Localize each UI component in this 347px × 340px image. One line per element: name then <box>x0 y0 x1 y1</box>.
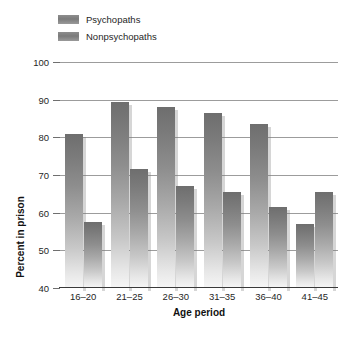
y-tick-mark-40 <box>53 288 60 289</box>
bar-nonpsychopaths-16-20 <box>84 222 102 288</box>
x-tick-label-36-40: 36–40 <box>255 291 281 302</box>
bar-fill <box>315 192 333 288</box>
bar-nonpsychopaths-36-40 <box>269 207 287 288</box>
bar-nonpsychopaths-26-30 <box>176 186 194 288</box>
plot-area: 405060708090100 <box>60 62 338 288</box>
legend-item-nonpsychopaths: Nonpsychopaths <box>58 29 218 43</box>
bar-fill <box>157 107 175 288</box>
bar-fill <box>84 222 102 288</box>
bar-shadow <box>102 225 105 291</box>
x-axis-title: Age period <box>60 307 338 318</box>
y-tick-label-100: 100 <box>33 57 49 68</box>
y-tick-label-50: 50 <box>38 245 49 256</box>
y-tick-mark-70 <box>53 175 60 176</box>
bar-shadow <box>148 172 151 291</box>
x-tick-label-26-30: 26–30 <box>163 291 189 302</box>
chart-legend: Psychopaths Nonpsychopaths <box>58 12 218 46</box>
y-tick-mark-50 <box>53 250 60 251</box>
bar-fill <box>130 169 148 288</box>
y-tick-mark-90 <box>53 100 60 101</box>
bar-psychopaths-21-25 <box>111 102 129 288</box>
bar-psychopaths-26-30 <box>157 107 175 288</box>
bar-shadow <box>241 195 244 291</box>
y-axis-title: Percent in prison <box>15 196 26 278</box>
bar-fill <box>250 124 268 288</box>
x-tick-label-41-45: 41–45 <box>302 291 328 302</box>
bar-fill <box>176 186 194 288</box>
y-tick-label-70: 70 <box>38 170 49 181</box>
bar-fill <box>65 134 83 288</box>
legend-swatch-nonpsychopaths <box>58 32 79 41</box>
bar-fill <box>296 224 314 288</box>
caption-strip <box>0 333 347 340</box>
bar-nonpsychopaths-41-45 <box>315 192 333 288</box>
bar-psychopaths-41-45 <box>296 224 314 288</box>
bar-psychopaths-16-20 <box>65 134 83 288</box>
legend-swatch-psychopaths <box>58 15 79 24</box>
bar-chart-figure: Psychopaths Nonpsychopaths Percent in pr… <box>0 0 347 340</box>
legend-label-nonpsychopaths: Nonpsychopaths <box>86 31 157 42</box>
bar-fill <box>111 102 129 288</box>
y-tick-label-60: 60 <box>38 207 49 218</box>
x-tick-label-21-25: 21–25 <box>116 291 142 302</box>
bar-nonpsychopaths-21-25 <box>130 169 148 288</box>
x-axis-line <box>59 287 338 288</box>
bar-fill <box>204 113 222 288</box>
y-tick-label-80: 80 <box>38 132 49 143</box>
y-axis-title-wrapper: Percent in prison <box>16 62 17 288</box>
y-tick-label-90: 90 <box>38 94 49 105</box>
y-tick-mark-60 <box>53 213 60 214</box>
bar-shadow <box>287 210 290 291</box>
y-tick-mark-80 <box>53 137 60 138</box>
bar-fill <box>223 192 241 288</box>
x-tick-label-31-35: 31–35 <box>209 291 235 302</box>
y-tick-mark-100 <box>53 62 60 63</box>
bars-group <box>60 62 338 288</box>
legend-label-psychopaths: Psychopaths <box>86 14 140 25</box>
bar-shadow <box>194 189 197 291</box>
x-tick-label-16-20: 16–20 <box>70 291 96 302</box>
bar-psychopaths-31-35 <box>204 113 222 288</box>
y-tick-label-40: 40 <box>38 283 49 294</box>
bar-fill <box>269 207 287 288</box>
bar-shadow <box>333 195 336 291</box>
x-axis-tick-labels: 16–2021–2526–3031–3536–4041–45 <box>60 291 338 307</box>
bar-psychopaths-36-40 <box>250 124 268 288</box>
legend-item-psychopaths: Psychopaths <box>58 12 218 26</box>
bar-nonpsychopaths-31-35 <box>223 192 241 288</box>
